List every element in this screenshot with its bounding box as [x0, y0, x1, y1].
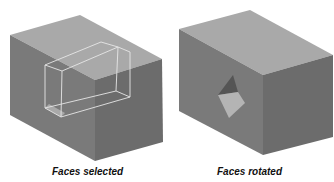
diagram-canvas — [0, 0, 334, 182]
box-faces-rotated — [179, 10, 333, 155]
box-faces-selected — [10, 15, 163, 161]
caption-faces-selected: Faces selected — [52, 166, 123, 177]
caption-faces-rotated: Faces rotated — [217, 166, 282, 177]
